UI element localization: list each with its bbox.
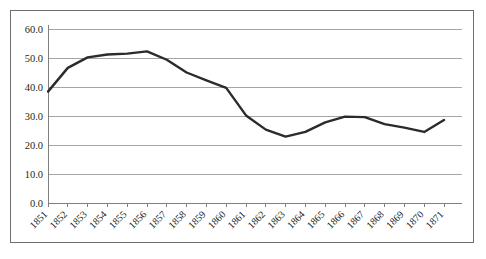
y-axis-tick-labels: 60.050.040.030.020.010.00.0 bbox=[25, 24, 43, 209]
x-axis-tick-label: 1863 bbox=[265, 209, 287, 231]
y-axis-tick-label: 30.0 bbox=[25, 111, 43, 122]
y-axis-tick-label: 20.0 bbox=[25, 140, 43, 151]
x-axis-tick-label: 1858 bbox=[166, 209, 188, 231]
x-axis-tick-label: 1852 bbox=[47, 209, 69, 231]
x-axis-tick-label: 1859 bbox=[186, 209, 208, 231]
x-axis-tick-label: 1856 bbox=[126, 209, 148, 231]
x-axis-tick-label: 1864 bbox=[285, 209, 307, 231]
x-axis-tick-label: 1866 bbox=[324, 209, 346, 231]
x-axis-tick-label: 1857 bbox=[146, 209, 168, 231]
x-axis-tick-label: 1867 bbox=[344, 209, 366, 231]
y-axis-tick-label: 60.0 bbox=[25, 24, 43, 35]
x-axis-tick-label: 1868 bbox=[364, 209, 386, 231]
line-chart: 60.050.040.030.020.010.00.0 185118521853… bbox=[11, 11, 475, 244]
y-axis-tick-label: 40.0 bbox=[25, 82, 43, 93]
x-axis-tick-labels: 1851185218531854185518561857185818591860… bbox=[27, 209, 445, 231]
x-axis-tick-label: 1853 bbox=[67, 209, 89, 231]
x-axis-tick-label: 1869 bbox=[384, 209, 406, 231]
y-axis-tick-label: 0.0 bbox=[30, 198, 43, 209]
y-axis-tick-label: 10.0 bbox=[25, 169, 43, 180]
x-axis-tick-label: 1855 bbox=[107, 209, 129, 231]
x-axis-tick-label: 1862 bbox=[245, 209, 267, 231]
x-axis-tick-label: 1865 bbox=[305, 209, 327, 231]
x-axis-tick-label: 1871 bbox=[423, 209, 445, 231]
x-axis-tick-label: 1851 bbox=[27, 209, 49, 231]
x-axis-tick-label: 1854 bbox=[87, 209, 109, 231]
y-axis-tick-label: 50.0 bbox=[25, 53, 43, 64]
chart-figure: 60.050.040.030.020.010.00.0 185118521853… bbox=[10, 10, 474, 243]
x-axis-tick-label: 1860 bbox=[206, 209, 228, 231]
data-series-line bbox=[48, 51, 444, 136]
x-axis-tickmarks bbox=[48, 203, 444, 207]
x-axis-tick-label: 1861 bbox=[225, 209, 247, 231]
x-axis-tick-label: 1870 bbox=[404, 209, 426, 231]
